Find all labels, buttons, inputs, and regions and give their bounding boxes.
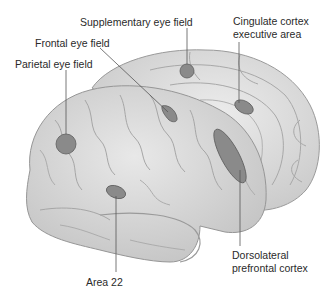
- parietal-eye-field-region: [56, 134, 76, 154]
- label-cingulate-line2: executive area: [233, 28, 301, 41]
- supplementary-eye-field-region: [180, 64, 194, 78]
- label-area-22: Area 22: [86, 276, 123, 289]
- label-dlpfc-line2: prefrontal cortex: [232, 262, 308, 275]
- label-frontal-eye-field: Frontal eye field: [35, 37, 110, 50]
- label-dlpfc-line1: Dorsolateral: [232, 249, 289, 262]
- label-supplementary-eye-field: Supplementary eye field: [80, 16, 193, 29]
- label-cingulate-line1: Cingulate cortex: [233, 15, 309, 28]
- label-parietal-eye-field: Parietal eye field: [15, 58, 93, 71]
